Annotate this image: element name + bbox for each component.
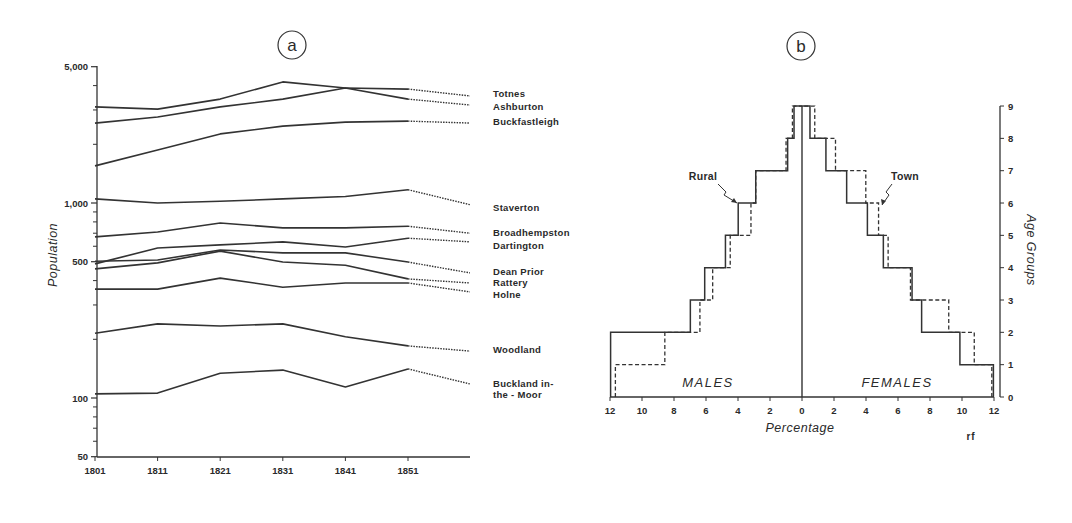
series-label: Ashburton <box>493 101 544 112</box>
series-line-ashburton <box>95 82 408 109</box>
series-projection-woodland <box>408 346 470 351</box>
x-tick-label: 6 <box>895 405 900 416</box>
series-projection-holne <box>408 283 470 292</box>
age-tick-label: 0 <box>1008 392 1013 403</box>
series-label: Woodland <box>493 344 541 355</box>
series-label: Rattery <box>493 277 528 288</box>
age-tick-label: 9 <box>1008 101 1013 112</box>
series-label: Buckland in- <box>493 378 554 389</box>
pyramid-town-females <box>802 106 992 397</box>
age-tick-label: 5 <box>1008 230 1014 241</box>
panel-b-x-ticks: 12108642024681012 <box>605 397 1000 416</box>
panel-b-x-axis-title: Percentage <box>766 421 835 435</box>
series-projection-buckfastleigh <box>408 121 470 123</box>
series-label: Holne <box>493 289 521 300</box>
x-tick-label: 0 <box>799 405 804 416</box>
panel-b-letter: b <box>796 37 805 56</box>
y-tick-label: 50 <box>77 451 88 462</box>
age-tick-label: 6 <box>1008 198 1013 209</box>
x-tick-label: 8 <box>671 405 676 416</box>
series-label: Staverton <box>493 202 540 213</box>
x-tick-label: 2 <box>831 405 836 416</box>
series-line-buckfastleigh <box>95 121 408 166</box>
series-line-woodland <box>95 324 408 346</box>
age-tick-label: 2 <box>1008 327 1013 338</box>
y-tick-label: 100 <box>72 393 88 404</box>
series-label: Buckfastleigh <box>493 116 559 127</box>
pyramid-town-males <box>615 106 802 397</box>
x-tick-label: 1821 <box>210 465 232 476</box>
pyramid-rural-females <box>802 106 993 397</box>
panel-a-y-axis-title: Population <box>46 223 60 287</box>
x-tick-label: 8 <box>927 405 932 416</box>
y-tick-label: 1,000 <box>64 198 88 209</box>
series-projection-staverton <box>408 190 470 205</box>
panel-b-age-ticks: 0123456789 <box>1000 101 1014 403</box>
panel-a-series <box>95 82 470 394</box>
panel-b-age-pyramid: b 12108642024681012 0123456789 MALES FEM… <box>605 32 1038 442</box>
x-tick-label: 4 <box>863 405 869 416</box>
series-label: Totnes <box>493 88 525 99</box>
y-tick-label: 500 <box>72 256 88 267</box>
series-projection-dartington <box>408 238 470 242</box>
x-tick-label: 10 <box>957 405 968 416</box>
figure: a 5,0001,00050010050 1801181118211831184… <box>0 0 1072 523</box>
series-line-totnes <box>95 88 408 123</box>
rural-annotation-label: Rural <box>689 170 717 182</box>
town-annotation-label: Town <box>891 170 919 182</box>
x-tick-label: 1841 <box>335 465 357 476</box>
panel-a-y-ticks: 5,0001,00050010050 <box>64 61 97 462</box>
pyramid-rural-males <box>611 106 802 397</box>
y-tick-label: 5,000 <box>64 61 88 72</box>
females-label: FEMALES <box>861 375 932 390</box>
x-tick-label: 2 <box>767 405 772 416</box>
credit-initials: rf <box>966 431 975 442</box>
x-tick-label: 1831 <box>272 465 294 476</box>
panel-b-y-axis-title: Age Groups <box>1024 213 1038 286</box>
series-projection-ashburton <box>408 99 470 105</box>
panel-a-x-ticks: 180118111821183118411851 <box>84 457 419 476</box>
panel-a-series-labels: TotnesAshburtonBuckfastleighStavertonBro… <box>493 88 570 400</box>
x-tick-label: 1811 <box>147 465 168 476</box>
males-label: MALES <box>682 375 734 390</box>
series-label: Broadhempston <box>493 227 570 238</box>
x-tick-label: 1801 <box>84 465 106 476</box>
age-tick-label: 3 <box>1008 295 1013 306</box>
series-line-holne <box>95 278 408 289</box>
x-tick-label: 12 <box>989 405 1000 416</box>
series-projection-rattery <box>408 279 470 283</box>
rural-arrowhead-icon <box>731 198 737 203</box>
age-tick-label: 8 <box>1008 133 1013 144</box>
x-tick-label: 4 <box>735 405 741 416</box>
age-tick-label: 4 <box>1008 262 1014 273</box>
x-tick-label: 10 <box>637 405 648 416</box>
series-line-broadhempston <box>95 223 408 237</box>
x-tick-label: 12 <box>605 405 616 416</box>
series-projection-buckland-in-the-moor <box>408 369 470 384</box>
series-projection-totnes <box>408 89 470 96</box>
series-line-buckland-in-the-moor <box>95 369 408 394</box>
series-projection-dean-prior <box>408 262 470 273</box>
panel-a-population-line-chart: a 5,0001,00050010050 1801181118211831184… <box>46 31 570 476</box>
panel-a-letter: a <box>287 36 297 55</box>
series-projection-broadhempston <box>408 226 470 233</box>
series-label: Dartington <box>493 240 544 251</box>
series-label: the - Moor <box>493 389 542 400</box>
age-tick-label: 1 <box>1008 359 1014 370</box>
series-label: Dean Prior <box>493 266 544 277</box>
x-tick-label: 1851 <box>397 465 419 476</box>
age-tick-label: 7 <box>1008 165 1013 176</box>
series-line-staverton <box>95 190 408 203</box>
x-tick-label: 6 <box>703 405 708 416</box>
